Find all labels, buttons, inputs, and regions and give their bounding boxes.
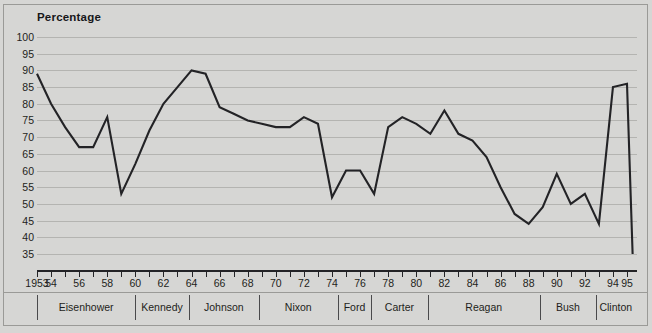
gridline (37, 254, 637, 255)
y-axis-tick-label: 95 (4, 49, 34, 59)
y-axis-labels: 10095908580757065605550454035 (4, 30, 34, 262)
x-axis-tick-label: 95 (612, 277, 642, 289)
x-axis-tick (93, 270, 94, 277)
administration-label-carter: Carter (371, 297, 427, 317)
x-axis-tick-label: 72 (289, 277, 319, 289)
x-axis-tick-label: 62 (148, 277, 178, 289)
x-axis-tick (65, 270, 66, 277)
x-axis-tick (206, 270, 207, 277)
x-axis-tick (458, 270, 459, 277)
x-axis-tick (444, 270, 445, 277)
gridline (37, 154, 637, 155)
administration-label-ford: Ford (338, 297, 372, 317)
x-axis-tick (543, 270, 544, 277)
x-axis-labels: 1953545658606264666870727476788082848688… (0, 277, 652, 292)
y-axis-tick-label: 75 (4, 115, 34, 125)
gridline (37, 237, 637, 238)
x-axis-tick (192, 270, 193, 277)
x-axis-tick (262, 270, 263, 277)
gridline (37, 137, 637, 138)
x-axis-tick (501, 270, 502, 277)
administration-label-nixon: Nixon (259, 297, 338, 317)
x-axis-tick (332, 270, 333, 277)
x-axis-tick (290, 270, 291, 277)
page-title: Percentage (37, 11, 101, 23)
x-axis-tick (135, 270, 136, 277)
gridline (37, 104, 637, 105)
y-axis-tick-label: 45 (4, 216, 34, 226)
y-axis-tick-label: 100 (4, 32, 34, 42)
gridline (37, 204, 637, 205)
x-axis-tick-label: 80 (401, 277, 431, 289)
x-axis-tick (515, 270, 516, 277)
x-axis-tick-label: 84 (457, 277, 487, 289)
gridline (37, 187, 637, 188)
x-axis-tick-label: 76 (345, 277, 375, 289)
x-axis-tick (529, 270, 530, 277)
chart-figure: Percentage 10095908580757065605550454035… (0, 0, 652, 333)
x-axis-tick (163, 270, 164, 277)
gridline (37, 87, 637, 88)
administration-band-divider (3, 292, 648, 293)
x-axis-tick-label: 86 (486, 277, 516, 289)
x-axis-tick (585, 270, 586, 277)
x-axis-tick (318, 270, 319, 277)
y-axis-tick-label: 85 (4, 82, 34, 92)
administration-label-kennedy: Kennedy (135, 297, 188, 317)
x-axis-tick-label: 82 (429, 277, 459, 289)
y-axis-tick-label: 80 (4, 99, 34, 109)
x-axis-tick (374, 270, 375, 277)
x-axis-tick-label: 66 (205, 277, 235, 289)
x-axis-tick-label: 56 (64, 277, 94, 289)
x-axis-tick-label: 58 (92, 277, 122, 289)
x-axis-tick (416, 270, 417, 277)
gridline (37, 54, 637, 55)
x-axis-tick-label: 92 (570, 277, 600, 289)
y-axis-tick-label: 40 (4, 232, 34, 242)
x-axis-tick (276, 270, 277, 277)
x-axis-tick (37, 270, 38, 277)
x-axis-tick (557, 270, 558, 277)
administration-label-bush: Bush (540, 297, 596, 317)
x-axis-tick-label: 70 (261, 277, 291, 289)
x-axis-tick (107, 270, 108, 277)
x-axis-tick-label: 68 (233, 277, 263, 289)
x-axis-tick (234, 270, 235, 277)
x-axis-line (37, 270, 637, 272)
x-axis-tick (472, 270, 473, 277)
gridline (37, 37, 637, 38)
x-axis-tick (360, 270, 361, 277)
y-axis-tick-label: 60 (4, 166, 34, 176)
x-axis-tick (402, 270, 403, 277)
administration-label-clinton: Clinton (596, 297, 635, 317)
x-axis-tick (79, 270, 80, 277)
x-axis-tick (248, 270, 249, 277)
x-axis-tick-label: 54 (36, 277, 66, 289)
administration-label-reagan: Reagan (428, 297, 540, 317)
plot-area (37, 37, 637, 254)
x-axis-tick (121, 270, 122, 277)
y-axis-tick-label: 35 (4, 249, 34, 259)
x-axis-tick (430, 270, 431, 277)
x-axis-tick (613, 270, 614, 277)
administration-label-johnson: Johnson (189, 297, 259, 317)
y-axis-tick-label: 90 (4, 65, 34, 75)
x-axis-tick (487, 270, 488, 277)
y-axis-tick-label: 55 (4, 182, 34, 192)
x-axis-tick-label: 60 (120, 277, 150, 289)
x-axis-tick (220, 270, 221, 277)
x-axis-tick (149, 270, 150, 277)
x-axis-tick (388, 270, 389, 277)
x-axis-tick (346, 270, 347, 277)
gridline (37, 70, 637, 71)
x-axis-tick-label: 88 (514, 277, 544, 289)
x-axis-tick-label: 90 (542, 277, 572, 289)
x-axis-tick (571, 270, 572, 277)
x-axis-tick (51, 270, 52, 277)
gridline (37, 221, 637, 222)
y-axis-tick-label: 65 (4, 149, 34, 159)
gridline (37, 120, 637, 121)
y-axis-tick-label: 70 (4, 132, 34, 142)
x-axis-tick (599, 270, 600, 277)
gridline (37, 171, 637, 172)
